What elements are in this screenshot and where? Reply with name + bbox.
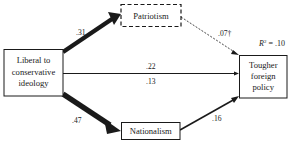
arrowhead-icon <box>104 119 121 134</box>
arrowhead-icon <box>234 72 239 76</box>
node-patriotism: Patriotism <box>121 5 181 27</box>
node-patriotism-label: Patriotism <box>133 11 169 21</box>
coef-ideology-nationalism: .47 <box>72 116 82 125</box>
edge-ideology-to-patriotism: .31 <box>63 12 121 52</box>
node-ideology: Liberal to conservative ideology <box>4 50 63 97</box>
coef-ideology-policy-total: .22 <box>146 62 156 71</box>
r-squared-value: = .10 <box>266 39 285 48</box>
edge-ideology-to-policy: .22 .13 <box>63 62 239 86</box>
coef-ideology-policy-direct: .13 <box>146 77 156 86</box>
edge-nationalism-to-policy: .16 <box>180 96 239 130</box>
coef-ideology-patriotism: .31 <box>76 28 86 37</box>
node-nationalism: Nationalism <box>122 123 181 140</box>
node-ideology-line-2: conservative <box>12 67 56 77</box>
r-squared-label: R2 = .10 <box>258 39 285 48</box>
edge-patriotism-to-policy: .07† <box>181 17 239 55</box>
edge-ideology-to-nationalism: .47 <box>63 94 121 134</box>
node-nationalism-label: Nationalism <box>130 126 172 136</box>
node-ideology-line-1: Liberal to <box>17 55 51 65</box>
node-ideology-line-3: ideology <box>18 78 49 88</box>
path-diagram: .31 .47 .22 .13 .07† .16 Liberal to cons… <box>0 0 290 149</box>
coef-nationalism-policy: .16 <box>212 114 222 123</box>
node-policy: Tougher foreign policy <box>240 56 288 99</box>
node-policy-line-1: Tougher <box>249 60 278 70</box>
arrowhead-icon <box>231 96 239 103</box>
node-policy-line-2: foreign <box>251 71 277 81</box>
coef-patriotism-policy: .07† <box>218 29 231 38</box>
node-policy-line-3: policy <box>253 82 275 92</box>
